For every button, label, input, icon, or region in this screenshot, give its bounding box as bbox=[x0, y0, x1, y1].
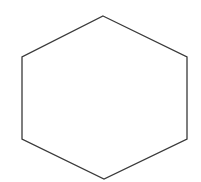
hexagon-shape bbox=[22, 16, 187, 179]
diagram-canvas bbox=[0, 0, 201, 182]
hexagon-diagram bbox=[0, 0, 201, 182]
